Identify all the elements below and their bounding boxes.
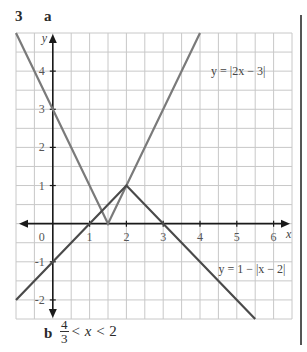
y-axis-arrow-down-icon: [49, 309, 57, 318]
x-tick-label: 5: [234, 230, 240, 244]
x-axis-label: x: [285, 227, 292, 241]
inequality-variable: x: [85, 323, 92, 339]
margin-rule: [300, 15, 302, 345]
fraction-denominator: 3: [60, 332, 69, 345]
y-tick-label: 2: [39, 140, 45, 154]
curve-1-minus-abs-x-minus-2: [16, 186, 255, 319]
curve-labels: y = |2x − 3|y = 1 − |x − 2|: [211, 64, 285, 276]
graph: xy 01234564321-1-2 y = |2x − 3|y = 1 − |…: [0, 0, 307, 352]
part-b-label: b: [44, 325, 52, 342]
x-tick-label: 1: [87, 230, 93, 244]
y-tick-label: 4: [39, 64, 45, 78]
x-tick-label: 3: [160, 230, 166, 244]
y-tick-label: -1: [35, 255, 45, 269]
fraction: 4 3: [60, 318, 69, 345]
x-tick-label: 6: [271, 230, 277, 244]
curve-label: y = 1 − |x − 2|: [218, 262, 285, 276]
fraction-numerator: 4: [60, 318, 69, 332]
curve-label: y = |2x − 3|: [211, 64, 265, 78]
x-axis-arrow-left-icon: [19, 220, 28, 228]
y-tick-label: 3: [39, 102, 45, 116]
inequality: < x < 2: [72, 323, 118, 340]
y-axis-arrow-up-icon: [49, 34, 57, 43]
answer-b: 4 3 < x < 2: [60, 318, 117, 345]
inequality-right: < 2: [92, 323, 117, 339]
y-axis-label: y: [41, 31, 48, 45]
y-tick-label: -2: [35, 293, 45, 307]
x-tick-label: 4: [197, 230, 203, 244]
origin-label: 0: [39, 230, 45, 244]
x-tick-label: 2: [123, 230, 129, 244]
y-tick-label: 1: [39, 179, 45, 193]
inequality-middle: <: [72, 323, 85, 339]
